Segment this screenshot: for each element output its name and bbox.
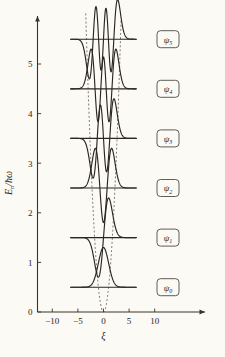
x-axis-tick-label: −5 — [73, 316, 83, 326]
y-axis-tick-label: 0 — [28, 307, 33, 317]
harmonic-oscillator-figure: −10−50510012345ξEn/ħω ψ5ψ4ψ3ψ2ψ1ψ0 — [0, 0, 225, 357]
wavefunction-label-box: ψ3 — [157, 130, 179, 147]
wavefunction-label-box: ψ0 — [157, 279, 179, 296]
y-axis-tick-label: 4 — [28, 109, 33, 119]
y-axis-label: En/ħω — [3, 171, 15, 196]
x-axis-tick-label: −10 — [45, 316, 60, 326]
y-axis-tick-label: 3 — [28, 159, 33, 169]
x-axis-label: ξ — [101, 330, 106, 342]
svg-text:En/ħω: En/ħω — [3, 171, 15, 196]
x-axis-tick-label: 10 — [150, 316, 160, 326]
y-axis-tick-label: 2 — [28, 208, 33, 218]
x-axis-tick-label: 0 — [101, 316, 106, 326]
wavefunction-label-box: ψ1 — [157, 229, 179, 246]
wavefunction-label-box: ψ2 — [157, 180, 179, 197]
wavefunction-label-box: ψ5 — [157, 31, 179, 48]
wavefunction-label-box: ψ4 — [157, 80, 179, 97]
x-axis-tick-label: 5 — [127, 316, 132, 326]
y-axis-tick-label: 5 — [28, 59, 33, 69]
y-axis-tick-label: 1 — [28, 258, 33, 268]
